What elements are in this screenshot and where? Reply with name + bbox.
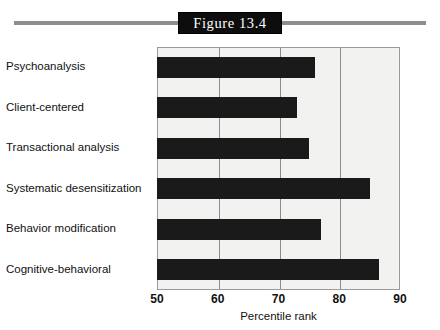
category-label: Client-centered bbox=[6, 101, 148, 114]
bar bbox=[157, 259, 379, 280]
category-axis-labels: PsychoanalysisClient-centeredTransaction… bbox=[0, 47, 152, 290]
category-label: Psychoanalysis bbox=[6, 60, 148, 73]
figure-title-box: Figure 13.4 bbox=[178, 12, 282, 34]
x-tick-label-70: 70 bbox=[272, 292, 285, 306]
bar-series bbox=[157, 47, 400, 290]
bar bbox=[157, 138, 309, 159]
category-label: Transactional analysis bbox=[6, 141, 148, 154]
category-label: Systematic desensitization bbox=[6, 182, 148, 195]
figure-title-band: Figure 13.4 bbox=[0, 12, 440, 34]
category-label: Behavior modification bbox=[6, 222, 148, 235]
x-tick-label-60: 60 bbox=[211, 292, 224, 306]
x-axis-tick-labels: 5060708090 bbox=[0, 292, 440, 308]
bar bbox=[157, 178, 370, 199]
x-axis-title: Percentile rank bbox=[157, 310, 400, 322]
x-tick-label-80: 80 bbox=[333, 292, 346, 306]
bar bbox=[157, 97, 297, 118]
x-tick-label-50: 50 bbox=[150, 292, 163, 306]
category-label: Cognitive-behavioral bbox=[6, 263, 148, 276]
page-title: Figure 13.4 bbox=[193, 15, 266, 32]
bar bbox=[157, 57, 315, 78]
bar bbox=[157, 219, 321, 240]
figure-container: Figure 13.4 PsychoanalysisClient-centere… bbox=[0, 0, 440, 330]
x-tick-label-90: 90 bbox=[393, 292, 406, 306]
